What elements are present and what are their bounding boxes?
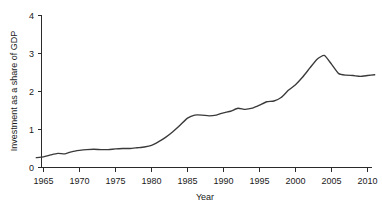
x-tick-label: 1970 <box>69 176 89 186</box>
y-tick-label: 4 <box>29 11 34 21</box>
x-tick-label: 2000 <box>285 176 305 186</box>
x-axis-title: Year <box>196 192 214 202</box>
y-tick-label: 3 <box>29 49 34 59</box>
y-tick-label: 1 <box>29 125 34 135</box>
y-axis-ticks: 0 1 2 3 4 <box>29 11 42 173</box>
x-tick-label: 1965 <box>33 176 53 186</box>
x-tick-label: 1980 <box>141 176 161 186</box>
x-tick-label: 1995 <box>249 176 269 186</box>
y-axis-title: Investment as a share of GDP <box>9 31 19 152</box>
x-tick-label: 1975 <box>105 176 125 186</box>
x-tick-label: 2005 <box>321 176 341 186</box>
y-tick-label: 2 <box>29 87 34 97</box>
data-series-line <box>36 55 374 157</box>
y-tick-label: 0 <box>29 163 34 173</box>
x-tick-label: 1985 <box>177 176 197 186</box>
x-tick-label: 1990 <box>213 176 233 186</box>
x-axis-ticks: 1965 1970 1975 1980 1985 1990 1995 2000 … <box>33 168 377 187</box>
line-chart: 0 1 2 3 4 1965 1970 1975 1980 1985 1990 <box>0 0 382 206</box>
x-tick-label: 2010 <box>357 176 377 186</box>
chart-figure: 0 1 2 3 4 1965 1970 1975 1980 1985 1990 <box>0 0 382 206</box>
